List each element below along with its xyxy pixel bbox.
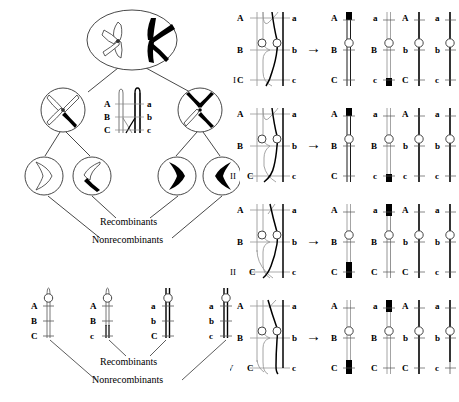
centromere-icon xyxy=(258,327,266,335)
case-II-out-4: a b c xyxy=(435,108,456,182)
case-IV-o1-B: B xyxy=(331,333,337,343)
case-III-o3-A: A xyxy=(402,205,409,215)
case-IV-numeral: IV xyxy=(230,363,234,373)
centromere-icon xyxy=(415,135,423,143)
case-IV-o1-A: A xyxy=(331,301,338,311)
case-IV-in-a: a xyxy=(292,301,297,311)
case-I-o1-A: A xyxy=(331,13,338,23)
cell-daughter-right xyxy=(178,88,222,132)
case-III-o3-b: b xyxy=(403,237,408,247)
centromere-icon xyxy=(345,39,353,47)
centromere-icon xyxy=(345,327,353,335)
centromere-icon xyxy=(345,231,353,239)
upper-recombinants-label: Recombinants xyxy=(100,216,157,227)
bottom1-label-B: B xyxy=(31,316,37,326)
centromere-icon xyxy=(446,39,454,47)
case-I-o2-a: a xyxy=(373,13,378,23)
case-I-out-2: a B c xyxy=(371,12,395,86)
upper-nonrecombinants-label: Nonrecombinants xyxy=(92,234,163,245)
centromere-icon xyxy=(345,135,353,143)
case-III-o4-c: c xyxy=(435,267,439,277)
inset-label-b: b xyxy=(147,112,152,122)
centromere-icon xyxy=(446,327,454,335)
case-IV-out-1: A B C xyxy=(331,300,355,374)
case-IV-out-3: A b C xyxy=(402,300,425,374)
case-I-in-c: c xyxy=(292,75,296,85)
case-III-in-B: B xyxy=(237,237,243,247)
case-III-out-2: a B C xyxy=(371,204,395,278)
case-II-o3-c: c xyxy=(403,171,407,181)
case-II-o3-A: A xyxy=(402,109,409,119)
case-III-o4-a: a xyxy=(435,205,440,215)
case-I-out-4: a b c xyxy=(435,12,456,86)
case-III-o2-C: C xyxy=(371,267,378,277)
centromere-icon xyxy=(415,39,423,47)
case-II-out-3: A b c xyxy=(402,108,425,182)
case-III-in-C: C xyxy=(249,267,256,277)
case-III-in-A: A xyxy=(237,205,244,215)
case-IV-o2-a: a xyxy=(373,301,378,311)
case-III-outputs: A B C a B C A b C xyxy=(331,204,456,278)
centromere-icon xyxy=(44,294,52,302)
bottom3-label-b: b xyxy=(151,316,156,326)
case-III-o4-b: b xyxy=(435,237,440,247)
case-I-in-B: B xyxy=(237,45,243,55)
case-IV: IV A B C a b xyxy=(230,300,456,374)
case-I-out-1: A B C xyxy=(331,12,355,86)
case-II-o2-a: a xyxy=(373,109,378,119)
case-IV-o4-a: a xyxy=(435,301,440,311)
case-II-out-2: a B c xyxy=(371,108,395,182)
case-I-numeral: I xyxy=(233,75,236,85)
case-IV-in-c: c xyxy=(292,363,296,373)
cell-gamete-2 xyxy=(73,157,111,195)
figure-root: A B C a b c Recombinants Nonrecombinants… xyxy=(0,0,459,402)
case-II-o1-A: A xyxy=(331,109,338,119)
case-IV-out-2: a B C xyxy=(371,300,395,374)
centromere-icon xyxy=(103,294,111,302)
case-II-numeral: II xyxy=(230,171,236,181)
case-I-in-A: A xyxy=(237,13,244,23)
inset-label-B: B xyxy=(104,112,110,122)
bottom4-label-c: c xyxy=(209,331,213,341)
case-III-out-3: A b C xyxy=(402,204,425,278)
case-IV-input: A B C a b c xyxy=(237,300,297,374)
bottom-chromosome-3: a b C xyxy=(151,288,174,341)
case-II-in-C: C xyxy=(247,171,254,181)
case-III: III A B C a b xyxy=(230,204,456,278)
case-I-arrow: → xyxy=(306,40,321,56)
case-IV-in-B: B xyxy=(237,333,243,343)
case-II-in-b: b xyxy=(292,141,297,151)
centromere-icon xyxy=(385,39,393,47)
case-I-o3-A: A xyxy=(402,13,409,23)
case-IV-o1-C: C xyxy=(331,363,338,373)
case-I-o1-C: C xyxy=(331,75,338,85)
centromere-icon xyxy=(258,231,266,239)
right-panel: I A B C a xyxy=(230,0,459,402)
case-III-numeral: III xyxy=(230,267,236,277)
case-III-o1-C: C xyxy=(331,267,338,277)
case-I-o4-c: c xyxy=(435,75,439,85)
case-IV-arrow: → xyxy=(306,328,321,344)
cell-gamete-3 xyxy=(158,157,196,195)
case-I-o4-a: a xyxy=(435,13,440,23)
case-II: II A B C a b c xyxy=(230,108,456,182)
case-I-in-C: C xyxy=(237,75,244,85)
bottom1-label-C: C xyxy=(31,331,38,341)
case-I-in-a: a xyxy=(292,13,297,23)
case-IV-o2-C: C xyxy=(371,363,378,373)
case-I-o1-B: B xyxy=(331,45,337,55)
bottom3-label-C: C xyxy=(151,331,158,341)
case-III-o1-B: B xyxy=(331,237,337,247)
case-II-outputs: A B C a B c A b c xyxy=(331,108,456,182)
case-IV-o3-b: b xyxy=(403,333,408,343)
case-I-o2-c: c xyxy=(373,75,377,85)
case-IV-o3-C: C xyxy=(402,363,409,373)
case-II-o2-c: c xyxy=(373,171,377,181)
bottom-chromosome-1: A B C xyxy=(31,288,54,341)
case-II-o4-c: c xyxy=(435,171,439,181)
centromere-icon xyxy=(273,231,281,239)
cell-gamete-1 xyxy=(25,157,63,195)
case-II-o4-b: b xyxy=(435,141,440,151)
case-II-o4-a: a xyxy=(435,109,440,119)
case-I-outputs: A B C a B c A b C xyxy=(331,12,456,86)
